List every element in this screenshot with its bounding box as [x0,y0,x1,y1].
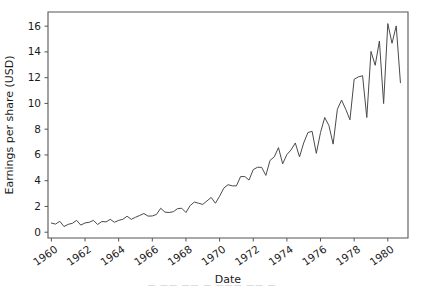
y-axis-title: Earnings per share (USD) [3,55,16,194]
x-tick-label: 1962 [64,243,93,268]
y-tick-label: 16 [28,20,42,32]
x-tick-label: 1972 [233,243,262,268]
y-tick-label: 0 [34,226,41,238]
plot-background [48,12,408,238]
y-axis-tick-labels: 0246810121416 [28,20,42,238]
y-tick-label: 12 [28,71,41,83]
y-tick-label: 4 [34,174,41,186]
y-tick-label: 10 [28,97,41,109]
y-tick-label: 14 [28,45,42,57]
y-tick-label: 6 [34,148,41,160]
x-tick-label: 1960 [31,243,60,268]
x-tick-label: 1980 [367,243,396,268]
x-axis-tick-labels: 1960196219641966196819701972197419761978… [31,243,396,268]
y-tick-label: 2 [34,200,41,212]
x-tick-label: 1970 [199,243,228,268]
x-tick-label: 1966 [132,243,161,268]
y-tick-label: 8 [34,123,41,135]
x-tick-label: 1974 [266,243,295,268]
figure-caption-partial: — —— —— — ——— —— — [0,281,424,290]
chart-figure: 0246810121416 19601962196419661968197019… [0,0,424,290]
x-tick-label: 1964 [98,243,127,268]
x-tick-label: 1978 [334,243,363,268]
x-tick-label: 1968 [165,243,194,268]
x-tick-label: 1976 [300,243,329,268]
earnings-per-share-line-chart: 0246810121416 19601962196419661968197019… [0,0,424,290]
